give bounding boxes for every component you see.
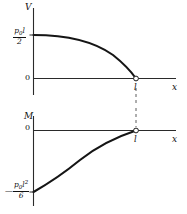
bottom-tick-label-l: l xyxy=(134,135,137,144)
top-peak-value-label: p0l 2 xyxy=(13,27,26,46)
top-peak-numerator: p0l xyxy=(13,27,26,36)
shear-force-curve xyxy=(34,35,137,79)
bottom-min-denominator: 6 xyxy=(18,192,25,200)
top-horizontal-axis-label: x xyxy=(172,83,177,92)
bottom-min-numerator: p0l2 xyxy=(13,180,29,190)
shear-moment-diagram-figure: V x 0 l p0l 2 M x 0 l — p0l2 6 xyxy=(0,0,187,214)
top-origin-label: 0 xyxy=(25,74,30,82)
top-tick-label-l: l xyxy=(134,83,137,92)
bending-moment-curve xyxy=(34,131,137,193)
bottom-endpoint-marker xyxy=(134,128,139,133)
bottom-chart-group xyxy=(30,108,177,206)
top-vertical-axis-label: V xyxy=(25,3,32,12)
bottom-origin-label: 0 xyxy=(25,124,30,132)
bottom-min-value-label: p0l2 6 xyxy=(13,180,29,200)
bottom-horizontal-axis-label: x xyxy=(172,135,177,144)
top-chart-group xyxy=(30,8,177,104)
top-peak-denominator: 2 xyxy=(16,38,23,46)
bottom-min-sign: — xyxy=(5,186,13,195)
top-endpoint-marker xyxy=(134,76,139,81)
bottom-vertical-axis-label: M xyxy=(24,112,33,121)
